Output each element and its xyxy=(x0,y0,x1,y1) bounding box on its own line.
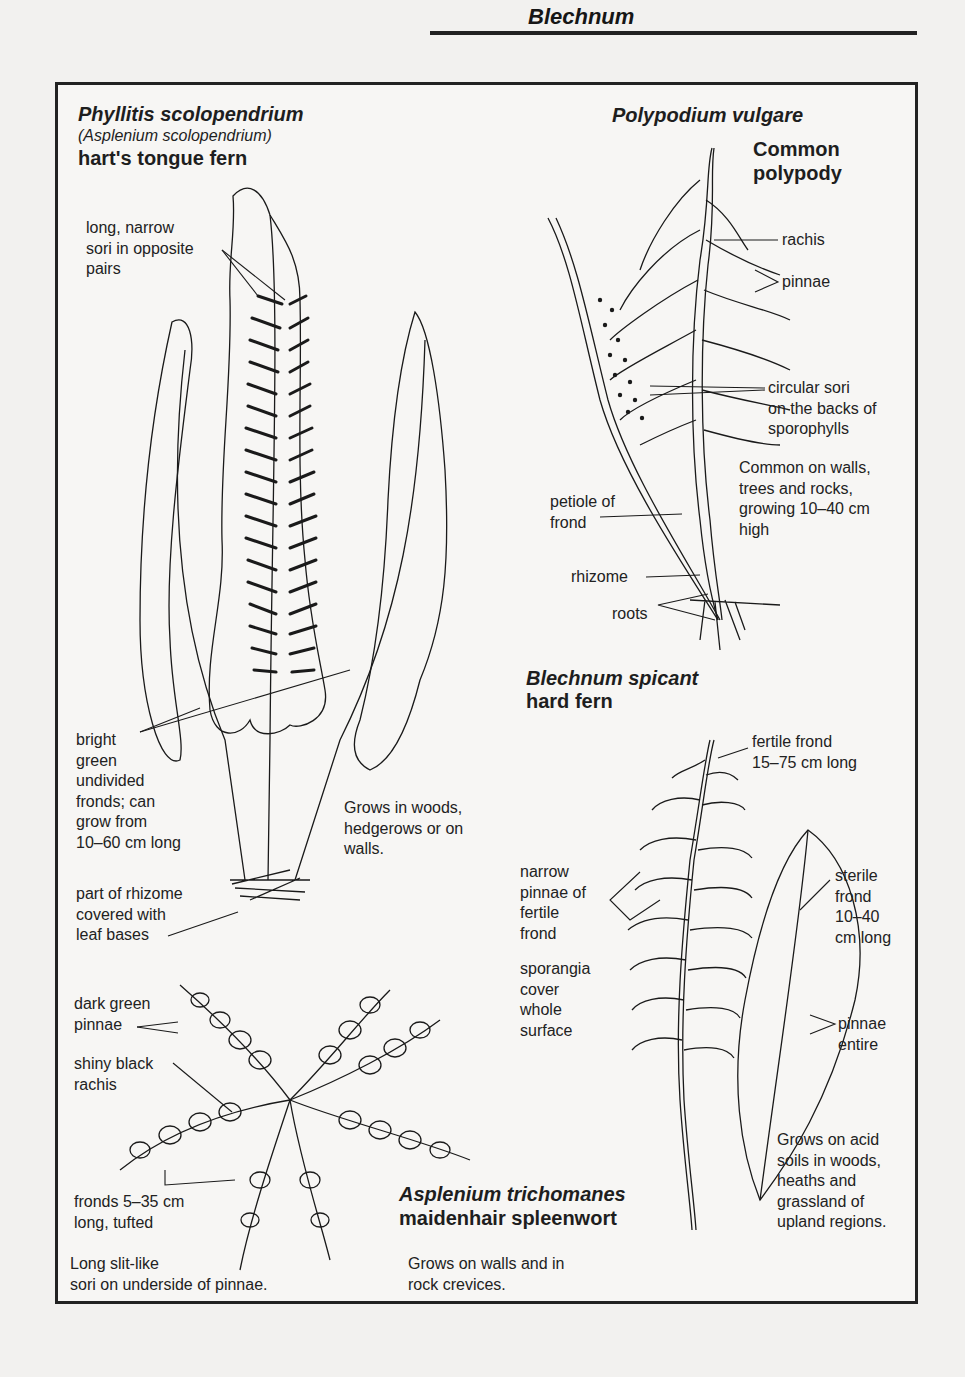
polypody-roots-label: roots xyxy=(612,604,648,625)
hard-fern-pinnae-entire-label: pinnae entire xyxy=(838,1014,886,1055)
spleenwort-common-name: maidenhair spleenwort xyxy=(399,1206,617,1230)
polypody-scientific-name: Polypodium vulgare xyxy=(612,104,803,126)
spleenwort-pinnae-label: dark green pinnae xyxy=(74,994,151,1035)
harts-tongue-rhizome-label: part of rhizome covered with leaf bases xyxy=(76,884,183,946)
polypody-pinnae-label: pinnae xyxy=(782,272,830,293)
harts-tongue-habitat: Grows in woods, hedgerows or on walls. xyxy=(344,798,463,860)
harts-tongue-synonym: (Asplenium scolopendrium) xyxy=(78,126,272,146)
harts-tongue-fronds-label: bright green undivided fronds; can grow … xyxy=(76,730,181,853)
hard-fern-sterile-frond-label: sterile frond 10–40 cm long xyxy=(835,866,891,948)
polypody-rhizome-label: rhizome xyxy=(571,567,628,588)
harts-tongue-sori-label: long, narrow sori in opposite pairs xyxy=(86,218,194,280)
hard-fern-fertile-frond-label: fertile frond 15–75 cm long xyxy=(752,732,857,773)
harts-tongue-common-name: hart's tongue fern xyxy=(78,146,247,170)
hard-fern-scientific-name: Blechnum spicant xyxy=(526,667,698,689)
polypody-rachis-label: rachis xyxy=(782,230,825,251)
harts-tongue-scientific-name: Phyllitis scolopendrium xyxy=(78,103,304,125)
polypody-habitat: Common on walls, trees and rocks, growin… xyxy=(739,458,871,540)
polypody-sori-label: circular sori on the backs of sporophyll… xyxy=(768,378,877,440)
spleenwort-rachis-label: shiny black rachis xyxy=(74,1054,153,1095)
hard-fern-common-name: hard fern xyxy=(526,689,613,713)
spleenwort-sori-label: Long slit-like sori on underside of pinn… xyxy=(70,1254,267,1295)
spleenwort-fronds-label: fronds 5–35 cm long, tufted xyxy=(74,1192,184,1233)
hard-fern-narrow-pinnae-label: narrow pinnae of fertile frond xyxy=(520,862,586,944)
spleenwort-scientific-name: Asplenium trichomanes xyxy=(399,1183,626,1205)
polypody-petiole-label: petiole of frond xyxy=(550,492,615,533)
hard-fern-habitat: Grows on acid soils in woods, heaths and… xyxy=(777,1130,886,1233)
spleenwort-habitat: Grows on walls and in rock crevices. xyxy=(408,1254,565,1295)
hard-fern-sporangia-label: sporangia cover whole surface xyxy=(520,959,590,1041)
polypody-common-name: Common polypody xyxy=(753,137,842,185)
